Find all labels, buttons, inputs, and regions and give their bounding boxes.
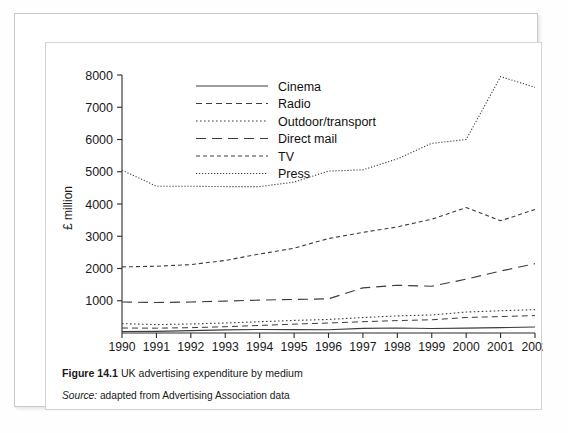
page-canvas: 10002000300040005000600070008000 1990199… (0, 0, 568, 433)
y-tick-label: 5000 (85, 165, 113, 179)
y-tick-label: 7000 (85, 101, 113, 115)
series-line-radio (122, 316, 535, 329)
y-axis-tick-labels: 10002000300040005000600070008000 (85, 69, 113, 309)
figure-caption-text: UK advertising expenditure by medium (121, 367, 303, 379)
x-tick-label: 1998 (384, 340, 411, 354)
x-tick-label: 1999 (418, 340, 445, 354)
chart-plot-area: 10002000300040005000600070008000 1990199… (46, 43, 543, 359)
legend-label-outdoor-transport: Outdoor/transport (278, 115, 376, 129)
source-text: adapted from Advertising Association dat… (100, 390, 290, 401)
legend-label-radio: Radio (278, 97, 311, 111)
y-axis-ticks (117, 75, 122, 301)
legend-label-cinema: Cinema (278, 80, 321, 94)
x-tick-label: 1994 (246, 340, 273, 354)
figure-number: Figure 14.1 (62, 367, 118, 379)
legend-label-direct-mail: Direct mail (278, 132, 337, 146)
y-tick-label: 3000 (85, 230, 113, 244)
y-axis-title: £ million (61, 186, 75, 230)
figure-source: Source: adapted from Advertising Associa… (62, 390, 527, 401)
legend-label-press: Press (278, 167, 310, 181)
x-tick-label: 1992 (177, 340, 204, 354)
source-label: Source: (62, 390, 97, 401)
x-tick-label: 2000 (453, 340, 480, 354)
y-tick-label: 6000 (85, 133, 113, 147)
legend-label-tv: TV (278, 150, 295, 164)
x-tick-label: 2001 (487, 340, 514, 354)
figure-caption: Figure 14.1 UK advertising expenditure b… (62, 367, 527, 381)
scanned-page-frame: 10002000300040005000600070008000 1990199… (14, 13, 538, 407)
x-tick-label: 1997 (349, 340, 376, 354)
x-tick-label: 1990 (108, 340, 135, 354)
series-line-direct-mail (122, 264, 535, 303)
figure-caption-block: Figure 14.1 UK advertising expenditure b… (62, 367, 527, 401)
x-tick-label: 1993 (212, 340, 239, 354)
figure-box: 10002000300040005000600070008000 1990199… (45, 42, 542, 410)
x-tick-label: 1991 (143, 340, 170, 354)
y-tick-label: 2000 (85, 262, 113, 276)
y-tick-label: 1000 (85, 294, 113, 308)
y-tick-label: 8000 (85, 69, 113, 83)
x-tick-label: 2002 (521, 340, 543, 354)
y-tick-label: 4000 (85, 198, 113, 212)
series-line-tv (122, 208, 535, 267)
x-tick-label: 1995 (281, 340, 308, 354)
x-axis-tick-labels: 1990199119921993199419951996199719981999… (108, 340, 543, 354)
chart-legend: CinemaRadioOutdoor/transportDirect mailT… (196, 80, 376, 182)
x-tick-label: 1996 (315, 340, 342, 354)
line-chart-svg: 10002000300040005000600070008000 1990199… (46, 43, 543, 359)
x-axis-ticks (122, 333, 535, 338)
